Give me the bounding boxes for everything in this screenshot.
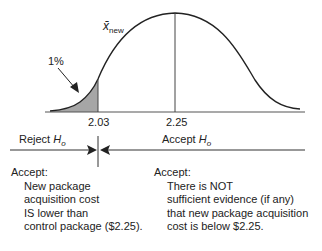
right-conclusion-heading: Accept:: [154, 166, 308, 180]
curve-label: x̄new: [103, 20, 124, 37]
h-symbol: H: [199, 133, 207, 145]
left-conclusion-line: control package ($2.25).: [11, 220, 143, 234]
accept-h0-label: Accept Ho: [162, 133, 211, 150]
left-conclusion-line: New package: [11, 180, 143, 194]
rejection-region-shading: [50, 79, 98, 112]
h-symbol: H: [53, 133, 61, 145]
left-conclusion-heading: Accept:: [11, 166, 143, 180]
right-conclusion-line: sufficient evidence (if any): [154, 193, 308, 207]
left-conclusion-line: IS lower than: [11, 207, 143, 221]
accept-text: Accept: [162, 133, 196, 145]
h-subscript: o: [207, 139, 211, 148]
reject-text: Reject: [19, 133, 50, 145]
h-subscript: o: [61, 139, 65, 148]
reject-h0-label: Reject Ho: [19, 133, 66, 150]
right-conclusion-line: There is NOT: [154, 180, 308, 194]
critical-value-label: 2.03: [88, 116, 109, 129]
right-conclusion-line: cost is below $2.25.: [154, 220, 308, 234]
tail-pointer-arrow: [58, 68, 75, 88]
mean-value-label: 2.25: [166, 116, 187, 129]
tail-area-label: 1%: [48, 55, 64, 68]
right-conclusion: Accept: There is NOT sufficient evidence…: [154, 166, 308, 234]
left-conclusion: Accept: New package acquisition cost IS …: [11, 166, 143, 234]
left-conclusion-line: acquisition cost: [11, 193, 143, 207]
right-conclusion-line: that new package acquisition: [154, 207, 308, 221]
curve-label-subscript: new: [109, 26, 124, 35]
